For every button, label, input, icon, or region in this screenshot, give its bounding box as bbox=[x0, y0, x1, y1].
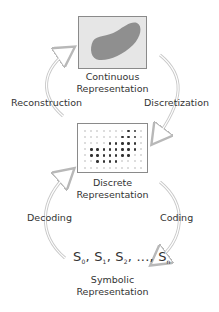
coding-label: Coding bbox=[160, 212, 193, 223]
dot-empty bbox=[84, 130, 86, 132]
discrete-label: Discrete Representation bbox=[70, 177, 155, 201]
dot-empty bbox=[90, 142, 92, 144]
dot-filled bbox=[109, 148, 111, 150]
symbol-sn-subscript: n bbox=[167, 258, 171, 265]
dot-empty bbox=[127, 167, 129, 169]
dot-filled bbox=[127, 136, 129, 138]
dot-filled bbox=[127, 148, 129, 150]
symbol-s1-subscript: 1 bbox=[103, 258, 107, 265]
continuous-label-line2: Representation bbox=[70, 83, 155, 95]
dot-filled bbox=[103, 154, 105, 156]
continuous-blob-shape bbox=[79, 17, 148, 70]
continuous-label: Continuous Representation bbox=[70, 71, 155, 95]
dot-filled bbox=[115, 154, 117, 156]
dot-filled bbox=[115, 160, 117, 162]
dot-empty bbox=[134, 160, 136, 162]
dot-empty bbox=[140, 142, 142, 144]
dot-filled bbox=[121, 154, 123, 156]
dot-empty bbox=[109, 167, 111, 169]
dot-empty bbox=[90, 136, 92, 138]
dot-filled bbox=[103, 160, 105, 162]
dot-filled bbox=[127, 142, 129, 144]
discrete-dot-grid bbox=[82, 128, 144, 171]
dot-empty bbox=[140, 154, 142, 156]
dot-filled bbox=[96, 154, 98, 156]
dot-filled bbox=[96, 160, 98, 162]
symbol-ellipsis: ..., bbox=[136, 249, 153, 264]
symbol-sn: S bbox=[158, 249, 166, 264]
dot-filled bbox=[109, 142, 111, 144]
discrete-label-line1: Discrete bbox=[70, 177, 155, 189]
dot-filled bbox=[127, 154, 129, 156]
dot-filled bbox=[115, 148, 117, 150]
dot-empty bbox=[140, 148, 142, 150]
discrete-label-line2: Representation bbox=[70, 189, 155, 201]
dot-empty bbox=[121, 130, 123, 132]
dot-empty bbox=[103, 142, 105, 144]
dot-empty bbox=[84, 167, 86, 169]
dot-filled bbox=[115, 142, 117, 144]
dot-filled bbox=[90, 148, 92, 150]
dot-filled bbox=[127, 130, 129, 132]
symbolic-label: Symbolic Representation bbox=[70, 274, 155, 298]
dot-filled bbox=[134, 148, 136, 150]
dot-empty bbox=[140, 167, 142, 169]
dot-empty bbox=[84, 142, 86, 144]
reconstruction-label: Reconstruction bbox=[11, 97, 82, 108]
dot-empty bbox=[84, 154, 86, 156]
dot-empty bbox=[109, 136, 111, 138]
dot-filled bbox=[96, 148, 98, 150]
dot-empty bbox=[96, 142, 98, 144]
symbol-s0-subscript: 0 bbox=[81, 258, 85, 265]
symbolic-label-line2: Representation bbox=[70, 286, 155, 298]
dot-filled bbox=[109, 154, 111, 156]
dot-filled bbox=[121, 148, 123, 150]
decoding-label: Decoding bbox=[27, 212, 72, 223]
symbol-s1: S bbox=[94, 249, 102, 264]
dot-empty bbox=[96, 136, 98, 138]
symbolic-label-line1: Symbolic bbox=[70, 274, 155, 286]
dot-filled bbox=[134, 130, 136, 132]
dot-empty bbox=[96, 130, 98, 132]
dot-empty bbox=[103, 136, 105, 138]
continuous-label-line1: Continuous bbox=[70, 71, 155, 83]
dot-empty bbox=[96, 167, 98, 169]
dot-empty bbox=[121, 167, 123, 169]
dot-filled bbox=[121, 142, 123, 144]
dot-empty bbox=[140, 130, 142, 132]
dot-filled bbox=[109, 160, 111, 162]
dot-filled bbox=[134, 142, 136, 144]
dot-empty bbox=[109, 130, 111, 132]
dot-empty bbox=[84, 148, 86, 150]
dot-empty bbox=[115, 167, 117, 169]
dot-filled bbox=[90, 154, 92, 156]
dot-empty bbox=[127, 160, 129, 162]
discretization-label: Discretization bbox=[144, 97, 209, 108]
dot-empty bbox=[90, 130, 92, 132]
continuous-representation-box bbox=[78, 16, 147, 69]
discrete-representation-box bbox=[77, 123, 148, 173]
dot-filled bbox=[134, 136, 136, 138]
dot-empty bbox=[140, 160, 142, 162]
dot-empty bbox=[84, 136, 86, 138]
dot-filled bbox=[103, 148, 105, 150]
dot-empty bbox=[90, 160, 92, 162]
dot-empty bbox=[121, 160, 123, 162]
dot-empty bbox=[115, 136, 117, 138]
symbol-s2-subscript: 2 bbox=[124, 258, 128, 265]
dot-filled bbox=[121, 136, 123, 138]
dot-empty bbox=[90, 167, 92, 169]
dot-empty bbox=[115, 130, 117, 132]
dot-empty bbox=[134, 154, 136, 156]
dot-empty bbox=[134, 167, 136, 169]
dot-empty bbox=[140, 136, 142, 138]
symbol-s2: S bbox=[115, 249, 123, 264]
dot-empty bbox=[103, 167, 105, 169]
symbol-sequence: S0, S1, S2, ..., Sn bbox=[73, 249, 171, 265]
dot-empty bbox=[103, 130, 105, 132]
dot-empty bbox=[84, 160, 86, 162]
